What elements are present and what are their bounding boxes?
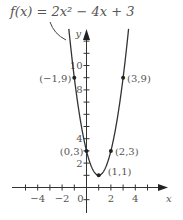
data-point [72,76,76,80]
point-label: (3,9) [127,73,151,84]
x-axis-arrow-icon [158,184,168,191]
x-tick-label: 0 [77,193,83,204]
y-tick-label: 8 [76,84,82,95]
y-axis-label: y [75,28,82,39]
y-axis-arrow-icon [83,29,90,40]
x-tick-label: −4 [30,193,45,204]
parabola-plot: f(x) = 2x² − 4x + 3 −4−202424810xy (−1,9… [0,0,183,220]
data-point [85,149,89,153]
x-tick-label: 2 [108,193,114,204]
y-tick-label: 10 [70,60,83,71]
x-tick-label: −2 [55,193,70,204]
point-label: (1,1) [108,166,132,177]
axes: −4−202424810xy [12,28,172,213]
x-axis-label: x [166,193,172,204]
y-tick-label: 4 [76,133,82,144]
labeled-points: (−1,9)(3,9)(0,3)(2,3)(1,1) [39,73,151,178]
x-tick-label: 4 [132,193,138,204]
point-label: (2,3) [115,146,139,157]
data-point [109,149,113,153]
point-label: (0,3) [60,146,84,157]
data-point [97,173,101,177]
point-label: (−1,9) [39,73,71,84]
leader-line [50,22,66,40]
data-point [121,76,125,80]
y-tick-label: 2 [76,158,82,169]
function-label: f(x) = 2x² − 4x + 3 [9,4,134,19]
